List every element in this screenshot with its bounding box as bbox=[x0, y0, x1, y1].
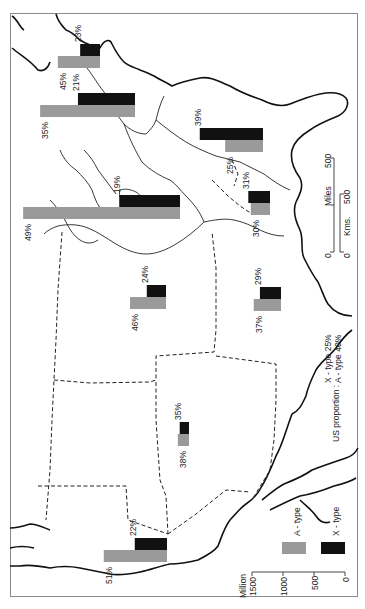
us-proportion-prefix: US proportion : bbox=[331, 385, 341, 442]
a-type-percent-label: 37% bbox=[254, 316, 264, 333]
x-type-bar bbox=[180, 422, 189, 434]
a-type-bar bbox=[254, 299, 281, 311]
x-type-percent-label: 21% bbox=[71, 74, 81, 91]
scale-miles-0: 0 bbox=[323, 253, 333, 258]
x-type-percent-label: 23% bbox=[73, 25, 83, 42]
a-type-bar bbox=[58, 56, 100, 68]
dashed-borders bbox=[38, 232, 276, 534]
x-type-bar bbox=[78, 93, 135, 105]
region-bar-group: 39%25% bbox=[193, 109, 263, 174]
x-type-bar bbox=[135, 538, 167, 550]
scale-miles-label: Miles bbox=[323, 186, 333, 206]
a-type-percent-label: 49% bbox=[23, 224, 33, 241]
a-type-bar bbox=[104, 550, 167, 562]
region-bar-group: 24%46% bbox=[130, 266, 166, 331]
legend-label-a-type: A - type bbox=[292, 507, 302, 536]
x-type-percent-label: 19% bbox=[112, 176, 122, 193]
legend: A - type X - type 1500 1000 500 0 Millio… bbox=[238, 506, 351, 598]
x-type-percent-label: 35% bbox=[173, 403, 183, 420]
legend-axis-1500: 1500 bbox=[248, 577, 258, 596]
x-type-percent-label: 39% bbox=[193, 109, 203, 126]
legend-swatch-a-type bbox=[282, 542, 306, 554]
x-type-bar bbox=[119, 195, 180, 207]
region-bar-group: 22%51% bbox=[104, 519, 167, 584]
coastline bbox=[10, 14, 358, 575]
x-type-bar bbox=[248, 191, 270, 203]
region-bar-group: 35%38% bbox=[173, 403, 189, 468]
legend-swatch-x-type bbox=[321, 542, 345, 554]
x-type-percent-label: 31% bbox=[241, 172, 251, 189]
us-proportion-note: US proportion : X - type 25% A - type 40… bbox=[323, 334, 343, 442]
legend-axis-0: 0 bbox=[341, 577, 351, 582]
region-bar-group: 31%30% bbox=[241, 172, 270, 237]
region-bar-group: 29%37% bbox=[253, 268, 281, 333]
a-type-bar bbox=[178, 434, 189, 446]
us-proportion-x: X - type 25% bbox=[323, 334, 333, 383]
legend-axis-1000: 1000 bbox=[279, 577, 289, 596]
legend-axis-500: 500 bbox=[310, 576, 320, 590]
x-type-percent-label: 29% bbox=[253, 268, 263, 285]
a-type-percent-label: 45% bbox=[58, 73, 68, 90]
x-type-bar bbox=[147, 285, 166, 297]
scale-kms-0: 0 bbox=[342, 253, 352, 258]
x-type-percent-label: 24% bbox=[140, 266, 150, 283]
a-type-percent-label: 35% bbox=[40, 122, 50, 139]
region-bars: 23%45%21%35%39%25%19%49%31%30%24%46%29%3… bbox=[23, 25, 281, 584]
legend-unit-label: Million bbox=[238, 574, 248, 598]
a-type-bar bbox=[40, 105, 135, 117]
scale-bar: 0 500 Miles 0 500 Kms. bbox=[323, 154, 352, 258]
x-type-percent-label: 22% bbox=[128, 519, 138, 536]
a-type-bar bbox=[225, 140, 263, 152]
scale-miles-500: 500 bbox=[323, 154, 333, 168]
a-type-percent-label: 30% bbox=[251, 220, 261, 237]
a-type-bar bbox=[251, 203, 270, 215]
legend-label-x-type: X - type bbox=[331, 506, 341, 536]
x-type-bar bbox=[200, 128, 263, 140]
a-type-bar bbox=[23, 207, 180, 219]
x-type-bar bbox=[260, 287, 281, 299]
a-type-percent-label: 25% bbox=[225, 157, 235, 174]
a-type-percent-label: 46% bbox=[130, 314, 140, 331]
a-type-percent-label: 51% bbox=[104, 567, 114, 584]
scale-kms-label: Kms. bbox=[342, 217, 352, 236]
scale-kms-500: 500 bbox=[342, 190, 352, 204]
a-type-percent-label: 38% bbox=[178, 451, 188, 468]
map-frame bbox=[11, 14, 358, 597]
region-bar-group: 21%35% bbox=[40, 74, 135, 139]
regional-bar-map: 23%45%21%35%39%25%19%49%31%30%24%46%29%3… bbox=[0, 0, 365, 609]
x-type-bar bbox=[80, 44, 100, 56]
a-type-bar bbox=[130, 297, 166, 309]
us-proportion-a: A - type 40% bbox=[333, 334, 343, 383]
